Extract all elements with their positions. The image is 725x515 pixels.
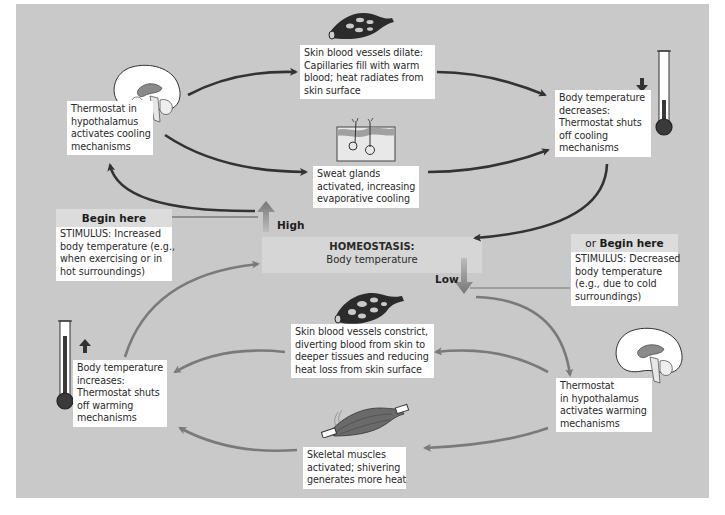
arrow-up-icon: [79, 339, 91, 353]
cooling-control-center-box: Thermostat in hypothalamus activates coo…: [67, 101, 153, 155]
text-line: mechanisms: [559, 142, 647, 155]
text-line: STIMULUS: Decreased: [575, 253, 674, 266]
homeostasis-label: HOMEOSTASIS: Body temperature: [262, 240, 482, 266]
text-line: Capillaries fill with warm: [304, 60, 431, 73]
text-line: when exercising or in: [60, 253, 168, 266]
text-line: Sweat glands: [317, 168, 415, 181]
text-line: hot surroundings): [60, 266, 168, 279]
text-line: hypothalamus: [71, 116, 149, 129]
begin-here-decreased-box: or Begin here STIMULUS: Decreased body t…: [571, 234, 678, 306]
text-line: mechanisms: [71, 141, 149, 154]
stimulus-increased-text: STIMULUS: Increased body temperature (e.…: [56, 227, 172, 281]
text-line: increases:: [77, 375, 163, 388]
begin-here-label: Begin here: [599, 237, 663, 249]
text-line: evaporative cooling: [317, 193, 415, 206]
text-line: body temperature (e.g.,: [60, 241, 168, 254]
text-line: surroundings): [575, 291, 674, 304]
text-line: STIMULUS: Increased: [60, 228, 168, 241]
thermometer-icon: [651, 48, 677, 138]
text-line: blood; heat radiates from: [304, 72, 431, 85]
text-line: mechanisms: [77, 412, 163, 425]
homeostasis-title: HOMEOSTASIS:: [262, 240, 482, 253]
high-label: High: [277, 219, 304, 231]
text-line: Body temperature: [77, 362, 163, 375]
text-line: Thermostat in: [71, 103, 149, 116]
cooling-sweat-glands-box: Sweat glands activated, increasing evapo…: [313, 166, 419, 208]
blood-vessel-icon: [330, 288, 406, 328]
homeostasis-subtitle: Body temperature: [262, 253, 482, 266]
or-begin-here-header: or Begin here: [571, 234, 678, 252]
text-line: Body temperature: [559, 92, 647, 105]
blood-vessel-icon: [326, 8, 396, 42]
text-line: activates cooling: [71, 128, 149, 141]
text-line: body temperature: [575, 266, 674, 279]
text-line: skin surface: [304, 85, 431, 98]
text-line: activated, increasing: [317, 181, 415, 194]
text-line: activated; shivering: [307, 462, 402, 475]
text-line: Skin blood vessels dilate:: [304, 47, 431, 60]
begin-here-increased-box: Begin here STIMULUS: Increased body temp…: [56, 209, 172, 281]
cooling-vessels-dilate-box: Skin blood vessels dilate: Capillaries f…: [300, 45, 435, 99]
text-line: off cooling: [559, 130, 647, 143]
muscle-icon: [320, 402, 410, 438]
or-prefix: or: [585, 237, 599, 249]
warming-vessels-constrict-box: Skin blood vessels constrict, diverting …: [291, 324, 434, 378]
text-line: in hypothalamus: [560, 393, 648, 406]
text-line: generates more heat: [307, 474, 402, 487]
text-line: (e.g., due to cold: [575, 278, 674, 291]
sweat-gland-icon: [336, 117, 396, 162]
high-arrow-icon: [257, 201, 275, 232]
text-line: deeper tissues and reducing: [295, 351, 430, 364]
warming-control-center-box: Thermostat in hypothalamus activates war…: [556, 378, 652, 432]
text-line: decreases:: [559, 105, 647, 118]
text-line: mechanisms: [560, 418, 648, 431]
text-line: heat loss from skin surface: [295, 364, 430, 377]
warming-response-box: Body temperature increases: Thermostat s…: [73, 360, 167, 427]
text-line: Thermostat shuts: [559, 117, 647, 130]
cooling-response-box: Body temperature decreases: Thermostat s…: [555, 90, 651, 157]
text-line: activates warming: [560, 405, 648, 418]
text-line: Skin blood vessels constrict,: [295, 326, 430, 339]
begin-here-header: Begin here: [56, 209, 172, 227]
text-line: Skeletal muscles: [307, 449, 402, 462]
text-line: Thermostat shuts: [77, 387, 163, 400]
stimulus-decreased-text: STIMULUS: Decreased body temperature (e.…: [571, 252, 678, 306]
warming-muscles-box: Skeletal muscles activated; shivering ge…: [303, 447, 406, 489]
text-line: Thermostat: [560, 380, 648, 393]
text-line: diverting blood from skin to: [295, 339, 430, 352]
low-label: Low: [435, 273, 459, 285]
text-line: off warming: [77, 400, 163, 413]
